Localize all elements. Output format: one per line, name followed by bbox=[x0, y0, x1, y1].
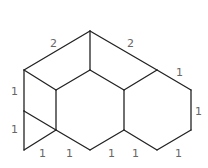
edge-length-labels: 22111111111 bbox=[11, 37, 202, 160]
edge-HI bbox=[157, 130, 191, 150]
edge-KL bbox=[56, 130, 90, 150]
length-label: 2 bbox=[127, 37, 134, 50]
edge-DC bbox=[56, 70, 90, 90]
length-label: 1 bbox=[11, 123, 18, 136]
length-label: 1 bbox=[195, 105, 202, 118]
edge-JK bbox=[90, 130, 124, 150]
length-label: 1 bbox=[11, 85, 18, 98]
edge-BD bbox=[24, 70, 56, 90]
geometric-diagram: 22111111111 bbox=[0, 0, 208, 168]
length-label: 1 bbox=[175, 147, 182, 160]
edge-EF bbox=[124, 70, 157, 90]
length-label: 1 bbox=[176, 66, 183, 79]
edge-IJ bbox=[124, 130, 157, 150]
length-label: 1 bbox=[108, 147, 115, 160]
edge-AF bbox=[90, 31, 157, 70]
length-label: 1 bbox=[39, 147, 46, 160]
edge-FG bbox=[157, 70, 191, 90]
edge-AB bbox=[24, 31, 90, 70]
length-label: 1 bbox=[66, 147, 73, 160]
edge-ML bbox=[24, 111, 56, 130]
edge-CE bbox=[90, 70, 124, 90]
length-label: 2 bbox=[50, 37, 57, 50]
length-label: 1 bbox=[132, 147, 139, 160]
